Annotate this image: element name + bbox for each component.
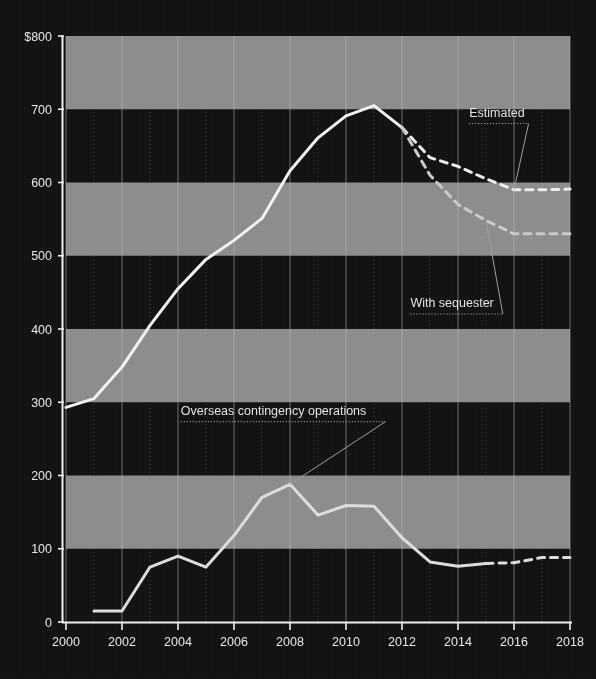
y-tick-label: $800 — [24, 30, 52, 44]
x-tick-label: 2000 — [52, 635, 80, 649]
x-tick-label: 2010 — [332, 635, 360, 649]
x-tick-label: 2016 — [500, 635, 528, 649]
annotation-label: Overseas contingency operations — [181, 404, 367, 418]
annotation-label: With sequester — [410, 296, 493, 310]
y-tick-label: 300 — [31, 396, 52, 410]
x-tick-label: 2008 — [276, 635, 304, 649]
x-tick-label: 2012 — [388, 635, 416, 649]
y-tick-label: 0 — [45, 616, 52, 630]
chart-root: 0100200300400500600700$800 2000200220042… — [0, 0, 596, 679]
x-tick-label: 2018 — [556, 635, 584, 649]
annotation-label: Estimated — [469, 106, 525, 120]
x-tick-label: 2014 — [444, 635, 472, 649]
y-tick-label: 100 — [31, 542, 52, 556]
defense-budget-line-chart: 0100200300400500600700$800 2000200220042… — [0, 0, 596, 679]
y-tick-label: 600 — [31, 176, 52, 190]
y-tick-label: 200 — [31, 469, 52, 483]
x-tick-label: 2002 — [108, 635, 136, 649]
y-tick-label: 500 — [31, 249, 52, 263]
y-tick-label: 700 — [31, 103, 52, 117]
x-tick-label: 2006 — [220, 635, 248, 649]
y-tick-label: 400 — [31, 323, 52, 337]
x-tick-label: 2004 — [164, 635, 192, 649]
